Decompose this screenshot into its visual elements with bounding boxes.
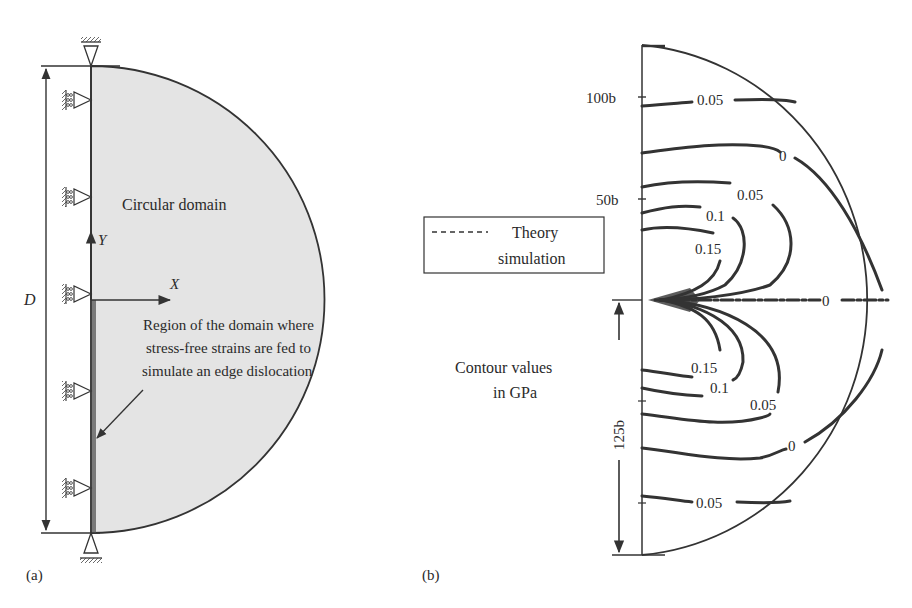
label-upper-0.15: 0.15	[695, 241, 721, 257]
panel-b-tag: (b)	[422, 567, 440, 584]
panel-a-tag: (a)	[26, 567, 43, 584]
roller-support-icon	[62, 478, 91, 498]
contour-upper-0	[642, 145, 882, 290]
dimension-125b-label: 125b	[611, 420, 627, 450]
label-lower-0: 0	[788, 438, 796, 454]
roller-support-icon	[62, 187, 91, 207]
x-axis-label: X	[169, 276, 180, 292]
label-upper-0.05: 0.05	[737, 187, 763, 203]
panel-a: D Y X Circular domain Region of the doma…	[23, 37, 324, 584]
tick-label-50b: 50b	[596, 192, 619, 208]
panel-b: 100b 50b 125b 0.05 0 0.05 0.1	[422, 45, 888, 584]
region-note-line-3: simulate an edge dislocation	[142, 363, 313, 379]
domain-label: Circular domain	[122, 196, 226, 213]
legend-theory-label: Theory	[512, 224, 558, 242]
region-note-line-1: Region of the domain where	[143, 317, 314, 333]
label-lower-0.1: 0.1	[710, 380, 729, 396]
figure: D Y X Circular domain Region of the doma…	[0, 0, 912, 608]
label-lower-0.05: 0.05	[750, 397, 776, 413]
roller-support-icon	[62, 381, 91, 401]
region-note-line-2: stress-free strains are fed to	[146, 340, 311, 356]
pin-support-bottom-icon	[80, 533, 102, 563]
label-upper-0.1: 0.1	[706, 208, 725, 224]
contour-upper-0.15	[642, 227, 720, 300]
d-dimension-label: D	[23, 291, 36, 308]
contour-upper-0.1	[642, 206, 744, 300]
roller-support-icon	[62, 90, 91, 110]
label-upper-0.05-outer: 0.05	[697, 92, 723, 108]
label-upper-0: 0	[779, 148, 787, 164]
dislocation-core-fan	[648, 288, 700, 312]
label-lower-0.15: 0.15	[691, 360, 717, 376]
label-middle-0: 0	[822, 293, 830, 309]
pin-support-top-icon	[81, 37, 101, 66]
label-lower-0.05-outer: 0.05	[696, 495, 722, 511]
legend-simulation-label: simulation	[498, 250, 566, 267]
roller-support-icon	[62, 284, 91, 304]
legend: Theory simulation	[424, 217, 604, 273]
contour-note-line-1: Contour values	[455, 359, 552, 376]
contour-note-line-2: in GPa	[493, 384, 537, 401]
tick-label-100b: 100b	[586, 90, 616, 106]
